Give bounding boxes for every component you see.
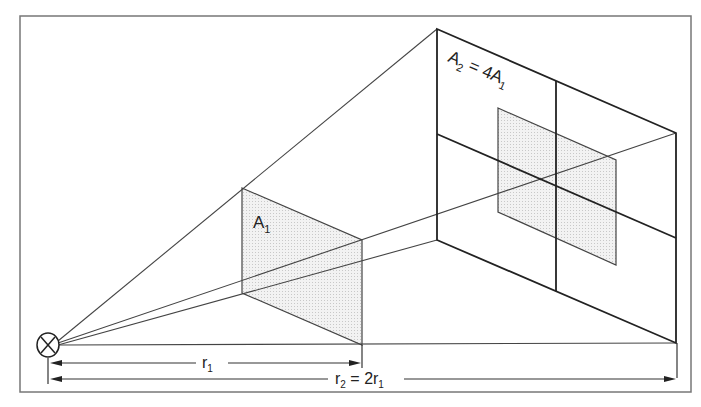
lamp-icon <box>37 333 59 357</box>
area-a1-panel <box>242 188 362 345</box>
inverse-square-diagram: A1 A2 = 4A1 r1 r2 = 2r1 <box>0 0 701 407</box>
label-a2-equation: A2 = 4A1 <box>444 47 511 92</box>
label-r2-equation: r2 = 2r1 <box>335 370 384 390</box>
label-r1: r1 <box>202 354 213 374</box>
